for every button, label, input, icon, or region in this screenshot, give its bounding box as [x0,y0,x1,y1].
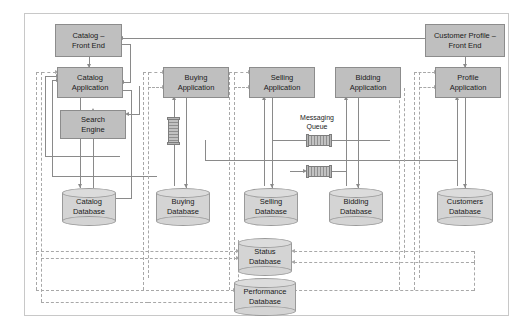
catalog-application-line1: Catalog [70,73,111,83]
bidding-database-line2: Database [329,207,383,217]
selling-database-line1: Selling [244,197,298,207]
search-engine-line1: Search [79,115,107,125]
status-database-label: Status Database [238,247,292,267]
selling-database-line2: Database [244,207,298,217]
dashed-rail-left-1 [36,72,37,290]
performance-database-cylinder[interactable]: Performance Database [234,278,296,316]
bidding-application-line1: Bidding [348,73,389,83]
bidding-application-line2: Application [348,83,389,93]
connector-sellingapp-sellingdb [272,98,273,188]
dashed-status-in-right [294,251,474,252]
dashed-buyingapp-in1 [143,72,163,73]
queue-messaging-upper-cap-left [306,134,309,147]
search-engine-box[interactable]: Search Engine [60,110,126,139]
queue-buying-vertical-icon [168,119,179,143]
selling-application-line1: Selling [262,73,303,83]
catalog-application-box[interactable]: Catalog Application [57,67,123,98]
dashed-rail-profile-2 [419,72,420,278]
status-database-bottom [238,266,292,276]
buying-application-line2: Application [176,83,217,93]
catalog-database-line1: Catalog [62,197,116,207]
connector-left-to-profileapp-v [205,140,206,161]
connector-profilefe-catalogfe [122,38,427,39]
connector-catalogdb-right [116,198,132,199]
dashed-sellingapp-in1 [229,72,249,73]
customers-database-line2: Database [437,207,493,217]
dashed-rail-bidding-2 [404,88,405,258]
queue-buying-vertical-cap-top [167,117,180,120]
customer-profile-front-end-box[interactable]: Customer Profile – Front End [425,24,505,57]
catalog-application-line2: Application [70,83,111,93]
catalog-database-cylinder[interactable]: Catalog Database [62,188,116,226]
queue-messaging-lower-icon [308,166,330,177]
connector-catalogfe-right [122,44,131,45]
messaging-queue-line1: Messaging [289,113,345,122]
queue-messaging-lower-cap-right [329,165,332,178]
catalog-database-line2: Database [62,207,116,217]
connector-catalogapp-loop-v2 [52,80,53,177]
dashed-buyingapp-in2 [148,87,163,88]
customer-profile-front-end-line1: Customer Profile – [432,31,498,41]
dashed-rail-selling-2 [234,72,235,260]
status-database-line1: Status [238,247,292,257]
connector-catalogdb-searchengine [93,136,94,188]
buying-database-line1: Buying [156,197,210,207]
customers-database-bottom [437,216,493,226]
dashed-performance-in-right [294,290,474,291]
status-database-cylinder[interactable]: Status Database [238,238,292,276]
dashed-rail-profile-1 [414,72,415,290]
performance-database-bottom [234,306,296,316]
dashed-rail-left-2 [41,72,42,302]
selling-database-cylinder[interactable]: Selling Database [244,188,298,226]
architecture-diagram-canvas: Catalog – Front End Customer Profile – F… [0,0,531,334]
connector-catalogfe-down [130,44,131,82]
queue-buying-vertical-cap-bottom [167,142,180,145]
dashed-performance-in-left [36,290,234,291]
connector-catalogdb-up [131,90,132,199]
messaging-queue-line2: Queue [289,122,345,131]
catalog-front-end-line2: Front End [70,41,107,51]
connector-catalogapp-loop-h1 [45,156,120,157]
connector-mq-lower-up [346,140,347,172]
customer-profile-front-end-line2: Front End [432,41,498,51]
connector-searchengine-feed-h [128,114,140,115]
performance-database-label: Performance Database [234,287,296,307]
dashed-status-in-left2 [41,258,237,259]
queue-messaging-upper-icon [308,135,330,146]
bidding-database-cylinder[interactable]: Bidding Database [329,188,383,226]
selling-application-box[interactable]: Selling Application [249,67,315,98]
selling-database-bottom [244,216,298,226]
catalog-front-end-box[interactable]: Catalog – Front End [55,24,122,57]
connector-biddingapp-biddingdb [358,98,359,188]
buying-application-line1: Buying [176,73,217,83]
catalog-database-label: Catalog Database [62,197,116,217]
connector-catalogapp-loop-h2 [52,176,157,177]
profile-application-line2: Application [448,83,489,93]
connector-catalogapp-in [123,82,131,83]
dashed-profileapp-in1 [414,72,435,73]
profile-application-line1: Profile [448,73,489,83]
dashed-rail-bidding-1 [399,80,400,290]
connector-catalogapp-loop-v1 [45,76,46,157]
dashed-status-in-left [36,251,238,252]
connector-buyingapp-buyingdb [186,98,187,188]
performance-database-line2: Database [234,297,296,307]
buying-application-box[interactable]: Buying Application [163,67,229,98]
connector-searchengine-feed-v [139,86,140,114]
profile-application-box[interactable]: Profile Application [435,67,501,98]
bidding-database-label: Bidding Database [329,197,383,217]
selling-database-label: Selling Database [244,197,298,217]
bidding-application-box[interactable]: Bidding Application [335,67,401,98]
dashed-performance-right-rail [474,262,475,291]
search-engine-line2: Engine [79,125,107,135]
buying-database-cylinder[interactable]: Buying Database [156,188,210,226]
dashed-catalogapp-in1 [36,72,56,73]
connector-mq-upper-right [330,140,390,141]
messaging-queue-label: Messaging Queue [289,113,345,131]
catalog-front-end-line1: Catalog – [70,31,107,41]
connector-profileapp-customersdb [465,98,466,188]
customers-database-cylinder[interactable]: Customers Database [437,188,493,226]
dashed-rail-buying-2 [148,72,149,278]
queue-messaging-upper-cap-right [329,134,332,147]
dashed-sellingapp-in2 [234,87,249,88]
